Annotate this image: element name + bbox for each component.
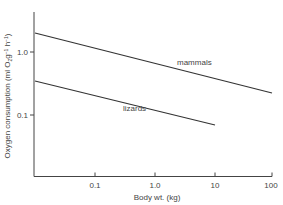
y-tick-label-0.1: 0.1 (17, 111, 29, 120)
mammals-line (35, 33, 272, 93)
y-tick-label-1: 1.0 (17, 48, 29, 57)
x-tick-label-1: 1.0 (149, 181, 161, 190)
x-tick-label-0.1: 0.1 (89, 181, 101, 190)
y-axis-title-suffix: ) (3, 33, 12, 36)
x-tick-label-100: 100 (264, 181, 278, 190)
oxygen-consumption-chart: 1.0 0.1 0.1 1.0 10 100 Body wt. (kg) Oxy… (0, 0, 283, 205)
x-tick-label-10: 10 (211, 181, 220, 190)
y-axis-title-h: h (3, 42, 12, 49)
mammals-label: mammals (177, 58, 212, 67)
y-axis-title: Oxygen consumption (ml O2g−1 h−1) (3, 33, 13, 158)
lizards-line (35, 81, 215, 125)
x-axis-title: Body wt. (kg) (134, 193, 181, 202)
lizards-label: lizards (123, 104, 146, 113)
y-axis-title-prefix: Oxygen consumption (ml O (3, 62, 12, 159)
